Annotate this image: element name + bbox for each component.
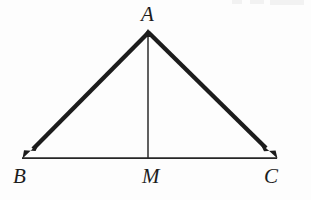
vertex-label-a: A xyxy=(141,4,154,25)
vertex-label-m: M xyxy=(142,166,160,187)
vector-ac-shaft xyxy=(148,32,266,148)
vertex-label-b: B xyxy=(13,166,26,187)
vertex-label-c: C xyxy=(264,166,278,187)
vector-ab-shaft xyxy=(33,32,149,149)
arrowhead-b-icon xyxy=(23,142,40,158)
geometry-figure: A B M C xyxy=(0,0,311,200)
